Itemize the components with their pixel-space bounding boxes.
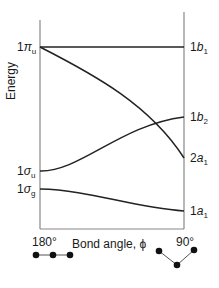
label-1piu: 1πu bbox=[17, 41, 36, 58]
curve-1piu-2a1 bbox=[40, 47, 184, 158]
linear-molecule-icon bbox=[33, 252, 74, 259]
curve-1sigmau-1b2 bbox=[40, 117, 184, 171]
label-1sigmag: 1σg bbox=[17, 183, 35, 200]
label-1sigmau: 1σu bbox=[17, 165, 35, 182]
bent-molecule-icon bbox=[156, 247, 198, 269]
label-2a1: 2a1 bbox=[190, 152, 208, 169]
label-1b1: 1b1 bbox=[190, 41, 208, 58]
x-tick-180: 180° bbox=[32, 236, 57, 248]
label-1b2: 1b2 bbox=[190, 111, 208, 128]
y-axis-label: Energy bbox=[4, 62, 18, 100]
x-tick-90: 90° bbox=[176, 236, 194, 248]
label-1a1: 1a1 bbox=[190, 205, 208, 222]
x-axis-label: Bond angle, ϕ bbox=[72, 238, 146, 250]
curve-1sigmag-1a1 bbox=[40, 189, 184, 211]
